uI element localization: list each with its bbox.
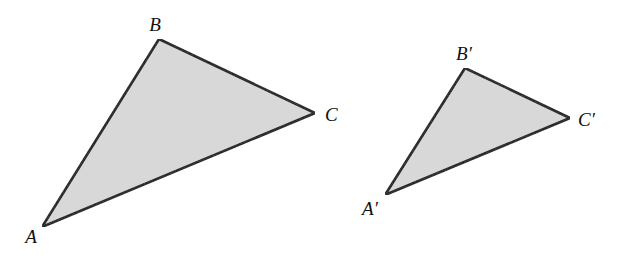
similar-triangles-diagram: A B C A′ B′ C′ (0, 0, 617, 256)
vertex-label-a-prime: A′ (360, 198, 379, 219)
triangle-abc: A B C (23, 14, 338, 247)
vertex-label-b: B (149, 14, 161, 35)
triangle-abc-shape (42, 39, 315, 227)
vertex-label-c: C (325, 104, 338, 125)
triangle-a-prime-b-prime-c-prime: A′ B′ C′ (360, 43, 596, 219)
vertex-label-a: A (23, 226, 37, 247)
vertex-label-b-prime: B′ (456, 43, 473, 64)
triangle-a-prime-b-prime-c-prime-shape (385, 68, 570, 195)
vertex-label-c-prime: C′ (578, 109, 596, 130)
